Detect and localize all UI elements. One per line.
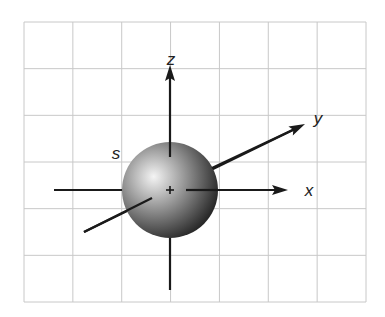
y-axis-label: y xyxy=(314,110,323,127)
diagram-canvas xyxy=(0,0,385,317)
z-axis-label: z xyxy=(167,51,176,68)
x-axis-label: x xyxy=(305,182,314,199)
s-orbital-label: s xyxy=(112,145,121,162)
orbital-diagram: z y x s xyxy=(0,0,385,317)
